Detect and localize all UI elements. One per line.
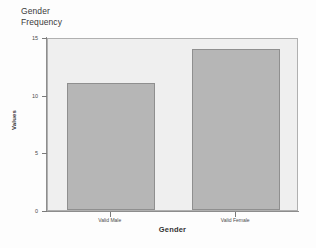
plot-area bbox=[47, 38, 298, 211]
x-tick-label: Valid Male bbox=[70, 217, 150, 224]
y-tick-label: 10 bbox=[8, 93, 38, 99]
chart-title: Gender Frequency bbox=[21, 6, 161, 27]
plot-inner bbox=[48, 39, 297, 210]
y-tick-label: 0 bbox=[8, 208, 38, 214]
bar-valid-male[interactable] bbox=[67, 83, 155, 210]
y-tick-mark bbox=[42, 38, 47, 39]
y-tick-label: 15 bbox=[8, 35, 38, 41]
x-axis-title: Gender bbox=[47, 225, 298, 234]
y-tick-mark bbox=[42, 153, 47, 154]
y-tick-label: 5 bbox=[8, 150, 38, 156]
y-tick-mark bbox=[42, 96, 47, 97]
y-axis-title: Values bbox=[11, 97, 17, 143]
y-tick-mark bbox=[42, 211, 47, 212]
x-axis-line bbox=[46, 211, 299, 212]
y-axis-line bbox=[46, 37, 47, 212]
bar-chart: Gender Frequency Values Gender 051015Val… bbox=[0, 0, 316, 248]
bar-valid-female[interactable] bbox=[192, 49, 280, 210]
x-tick-label: Valid Female bbox=[195, 217, 275, 224]
